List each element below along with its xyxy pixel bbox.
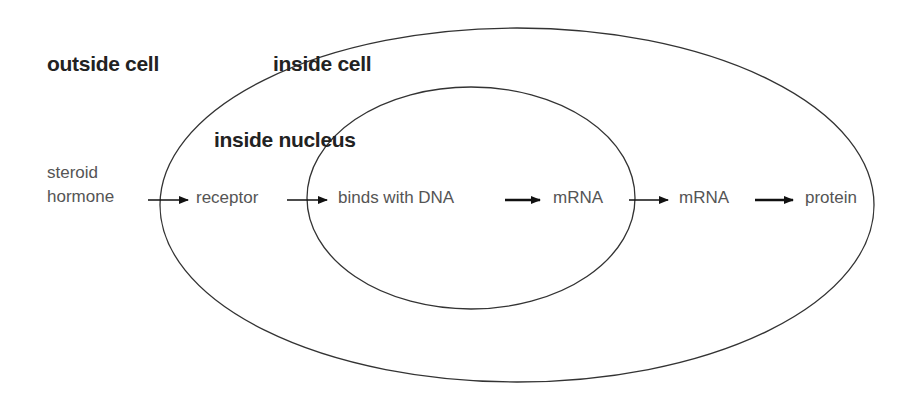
step-steroid-line2: hormone: [47, 185, 114, 209]
region-label-inside-nucleus: inside nucleus: [214, 128, 356, 152]
region-label-inside-cell: inside cell: [273, 52, 371, 76]
step-protein: protein: [805, 188, 857, 208]
region-label-outside-cell: outside cell: [47, 52, 159, 76]
step-mrna-nucleus: mRNA: [553, 188, 603, 208]
step-steroid-hormone: steroid hormone: [47, 161, 114, 209]
step-steroid-line1: steroid: [47, 161, 114, 185]
cell-membrane-ellipse: [160, 28, 874, 382]
step-binds-with-dna: binds with DNA: [338, 188, 454, 208]
step-receptor: receptor: [196, 188, 258, 208]
step-mrna-cytoplasm: mRNA: [679, 188, 729, 208]
